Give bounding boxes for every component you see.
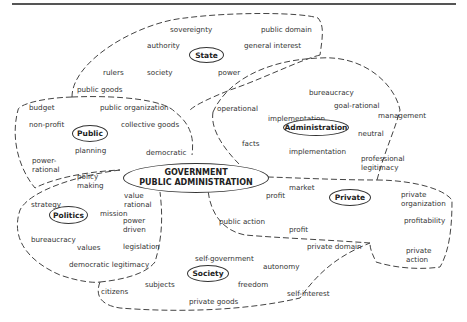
word-management: management — [378, 111, 426, 120]
politics-label: Politics — [53, 211, 84, 220]
word-policy-making: policy making — [77, 172, 104, 190]
word-implementation-2: implementation — [289, 147, 346, 156]
word-freedom: freedom — [238, 280, 268, 289]
word-power: power — [218, 68, 240, 77]
word-facts: facts — [242, 139, 259, 148]
word-operational: operational — [217, 104, 258, 113]
private-label: Private — [335, 193, 365, 202]
administration-node: Administration — [283, 119, 349, 136]
word-private-goods: private goods — [189, 297, 238, 306]
word-professional-legitimacy: professional legitimacy — [361, 154, 405, 172]
word-authority: authority — [147, 41, 180, 50]
administration-boundary-3 — [268, 177, 377, 180]
center-label-line1: GOVERNMENT — [164, 168, 227, 178]
center-label-line2: PUBLIC ADMINISTRATION — [139, 178, 253, 188]
word-democratic-legitimacy: democratic legitimacy — [69, 260, 149, 269]
word-collective-goods: collective goods — [121, 120, 179, 129]
public-node: Public — [72, 125, 108, 142]
state-node: State — [189, 47, 224, 63]
word-public-organization: public organization — [100, 103, 169, 112]
word-budget: budget — [29, 103, 54, 112]
government-public-administration-node: GOVERNMENT PUBLIC ADMINISTRATION — [123, 163, 269, 193]
state-boundary-2 — [190, 55, 320, 110]
word-self-interest: self-interest — [287, 289, 329, 298]
word-self-government: self-government — [195, 254, 254, 263]
word-profit-2: profit — [289, 225, 308, 234]
word-profit-1: profit — [266, 191, 285, 200]
word-value-rational: value rational — [124, 191, 152, 209]
word-bureaucracy-admin: bureaucracy — [309, 88, 354, 97]
state-label: State — [195, 51, 218, 60]
word-power-rational: power- rational — [32, 156, 60, 174]
word-citizens: citizens — [101, 287, 128, 296]
administration-label: Administration — [285, 123, 348, 132]
word-private-domain: private domain — [307, 242, 362, 251]
public-label: Public — [77, 129, 103, 138]
word-planning: planning — [75, 146, 106, 155]
word-legislation: legislation — [123, 242, 160, 251]
word-general-interest: general interest — [244, 41, 301, 50]
administration-boundary-2 — [213, 112, 240, 165]
word-public-goods: public goods — [77, 85, 123, 94]
word-non-profit: non-profit — [29, 120, 64, 129]
word-autonomy: autonomy — [263, 262, 299, 271]
word-private-action: private action — [406, 246, 431, 264]
word-profitability: profitability — [404, 216, 445, 225]
politics-node: Politics — [49, 206, 88, 224]
private-node: Private — [329, 189, 371, 206]
word-society: society — [147, 68, 173, 77]
word-market: market — [289, 183, 315, 192]
word-private-organization: private organization — [401, 190, 446, 208]
word-bureaucracy-politics: bureaucracy — [31, 235, 76, 244]
word-power-driven: power driven — [123, 216, 146, 234]
word-neutral: neutral — [358, 129, 384, 138]
word-public-action: public action — [219, 217, 265, 226]
society-node: Society — [187, 265, 229, 282]
word-public-domain: public domain — [261, 25, 312, 34]
society-label: Society — [192, 269, 223, 278]
word-subjects: subjects — [145, 280, 175, 289]
word-goal-rational: goal-rational — [334, 101, 379, 110]
word-rulers: rulers — [103, 68, 124, 77]
word-sovereignty: sovereignty — [170, 25, 212, 34]
word-values: values — [77, 243, 100, 252]
word-democratic: democratic — [146, 148, 186, 157]
